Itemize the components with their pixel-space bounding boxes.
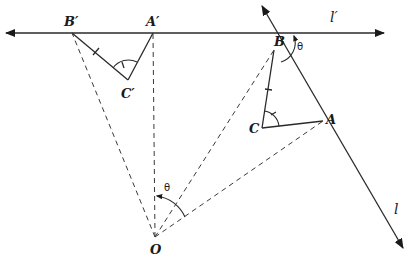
angle-tick-c-prime [122,62,124,68]
label-c-prime: C′ [121,86,135,101]
rotation-arc-o [157,196,185,217]
label-b: B [273,34,285,49]
triangle-prime-side-bc [72,33,128,80]
tick-mark-bc [265,89,272,90]
label-line-l-prime: l′ [330,9,338,25]
label-c: C [249,121,260,136]
ray-o-a-prime [153,33,155,237]
angle-arc-c-prime [113,60,137,68]
label-a-prime: A′ [144,14,160,29]
ray-o-b-prime [72,33,155,237]
label-a: A [324,112,336,127]
label-line-l: l [394,201,398,217]
label-o: O [150,242,162,257]
label-b-prime: B′ [63,14,79,29]
ray-o-a [155,121,323,237]
triangle-prime-side-ca [128,33,153,80]
label-theta-o: θ [164,182,170,193]
ray-o-b [155,50,274,237]
angle-arc-c [264,111,279,126]
rotation-diagram: B′ A′ C′ B A C O l′ l θ θ [0,0,412,260]
label-theta-b: θ [297,41,303,52]
